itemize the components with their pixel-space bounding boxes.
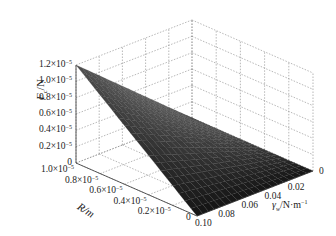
- r-tick-label: 0.6×10−5: [89, 186, 122, 196]
- z-tick-label: 1.2×10−5: [39, 60, 72, 70]
- z-tick-label: 0.6×10−5: [39, 109, 72, 119]
- gamma-tick-label: 0.08: [218, 210, 235, 220]
- r-tick-label: 0.8×10−5: [65, 176, 98, 186]
- r-tick-label: 1.0×10−5: [41, 165, 74, 175]
- gamma-tick-label: 0.02: [288, 183, 305, 193]
- z-tick-label: 0.2×10−5: [39, 142, 72, 152]
- gamma-axis-title: γw/N·m−1: [272, 199, 307, 212]
- gamma-tick-label: 0.06: [241, 201, 258, 211]
- r-tick-label: 0.4×10−5: [113, 197, 146, 207]
- r-tick-label: 0: [186, 213, 191, 223]
- r-tick-label: 0.2×10−5: [138, 207, 171, 217]
- z-tick-label: 0.4×10−5: [39, 125, 72, 135]
- gamma-tick-label: 0: [319, 167, 324, 177]
- gamma-tick-label: 0.10: [195, 219, 212, 229]
- z-axis-title: Fc/N: [34, 79, 49, 100]
